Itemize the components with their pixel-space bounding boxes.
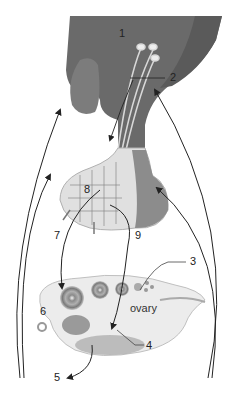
- feedback-arrow-left-outer: [17, 110, 60, 378]
- hypothalamus: [66, 16, 222, 150]
- label-6: 6: [40, 306, 46, 317]
- label-9: 9: [135, 230, 141, 241]
- hpo-axis-diagram: 1 2 3 4 5 6 7 8 9 ovary: [0, 0, 234, 394]
- pituitary-gland: [60, 148, 168, 234]
- label-ovary: ovary: [130, 303, 157, 314]
- label-3: 3: [190, 256, 196, 267]
- diagram-artwork: [0, 0, 234, 394]
- ovum: [38, 323, 46, 331]
- follicle-small: [134, 283, 142, 291]
- label-5: 5: [54, 372, 60, 383]
- label-1: 1: [119, 28, 125, 39]
- corpus-luteum: [62, 315, 90, 335]
- label-2: 2: [170, 72, 176, 83]
- follicle: [91, 281, 109, 299]
- feedback-arrow-left-inner: [22, 175, 50, 378]
- label-7: 7: [54, 230, 60, 241]
- ovary: [38, 275, 205, 355]
- label-4: 4: [146, 340, 152, 351]
- label-8: 8: [84, 184, 90, 195]
- follicle-large: [60, 286, 84, 310]
